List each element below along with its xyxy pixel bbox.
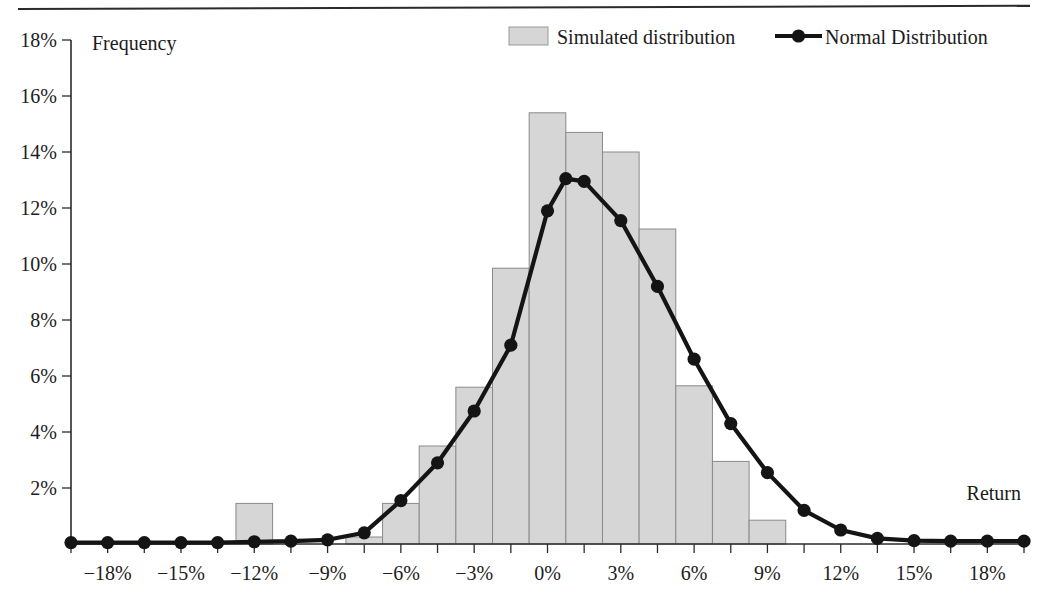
y-axis-tick-labels: 2%4%6%8%10%12%14%16%18% [20,29,57,499]
y-tick-label: 8% [30,309,57,331]
x-axis-tick-labels: −18%−15%−12%−9%−6%−3%0%3%6%9%12%15%18% [84,562,1006,584]
chart-legend: Simulated distributionNormal Distributio… [509,26,988,48]
normal-curve-marker [559,172,572,185]
normal-curve-marker [248,535,261,548]
histogram-bar [749,520,786,544]
y-tick-label: 6% [30,365,57,387]
y-tick-label: 14% [20,141,57,163]
normal-curve-marker [64,536,77,549]
normal-curve-marker [211,536,224,549]
y-tick-label: 12% [20,197,57,219]
x-tick-label: 9% [754,562,781,584]
normal-curve-marker [431,456,444,469]
y-tick-label: 18% [20,29,57,51]
legend-marker-normal [792,29,805,42]
normal-curve-marker [174,536,187,549]
normal-curve-marker [138,536,151,549]
histogram-bars [236,113,786,544]
histogram-bar [493,268,530,544]
normal-curve-marker [541,204,554,217]
x-tick-label: −15% [157,562,205,584]
x-tick-label: 18% [969,562,1006,584]
legend-label-simulated: Simulated distribution [557,26,735,48]
chart-canvas: −18%−15%−12%−9%−6%−3%0%3%6%9%12%15%18% 2… [0,0,1040,611]
normal-curve-marker [578,175,591,188]
normal-curve-marker [1017,535,1030,548]
normal-curve-marker [907,534,920,547]
normal-curve-marker [688,353,701,366]
legend-label-normal: Normal Distribution [825,26,988,48]
histogram-bar [676,386,713,544]
x-tick-label: −18% [84,562,132,584]
normal-curve-marker [871,532,884,545]
normal-curve-marker [651,280,664,293]
x-tick-label: 12% [822,562,859,584]
x-tick-label: −9% [309,562,347,584]
x-tick-label: 15% [896,562,933,584]
distribution-chart: −18%−15%−12%−9%−6%−3%0%3%6%9%12%15%18% 2… [0,0,1040,611]
histogram-bar [639,229,676,544]
legend-swatch-simulated [509,27,548,45]
x-tick-label: 3% [607,562,634,584]
x-axis-title: Return [967,482,1021,504]
normal-curve-marker [358,526,371,539]
y-tick-label: 10% [20,253,57,275]
x-tick-label: −6% [382,562,420,584]
normal-curve-marker [101,536,114,549]
normal-curve-marker [321,533,334,546]
normal-curve-marker [614,214,627,227]
y-tick-label: 16% [20,85,57,107]
x-tick-label: 0% [534,562,561,584]
normal-curve-marker [504,339,517,352]
normal-curve-marker [834,523,847,536]
normal-curve-marker [724,417,737,430]
normal-curve-marker [468,404,481,417]
x-tick-label: −3% [455,562,493,584]
normal-curve-marker [761,466,774,479]
normal-curve-marker [797,504,810,517]
x-tick-label: 6% [681,562,708,584]
x-tick-label: −12% [230,562,278,584]
normal-curve-marker [394,494,407,507]
y-tick-label: 2% [30,477,57,499]
normal-curve-marker [284,535,297,548]
histogram-bar [712,461,749,544]
normal-curve-marker [981,535,994,548]
histogram-bar [602,152,639,544]
y-tick-label: 4% [30,421,57,443]
y-axis-title: Frequency [92,32,176,55]
normal-curve-marker [944,535,957,548]
